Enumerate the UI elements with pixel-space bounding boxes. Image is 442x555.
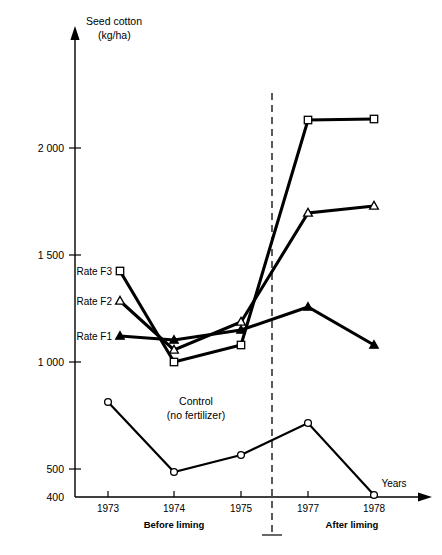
y-tick-label-1000: 1 000: [38, 356, 64, 368]
series-label-rate-f2: Rate F2: [76, 296, 112, 307]
marker-rate-f3-1973: [116, 267, 123, 274]
series-line-control: [108, 402, 374, 495]
seed-cotton-line-chart: Seed cotton (kg/ha) Years 2 000 1 500 1 …: [0, 0, 442, 555]
x-tick-label-1975: 1975: [230, 503, 253, 514]
x-tick-label-1977: 1977: [297, 503, 320, 514]
series-label-rate-f1: Rate F1: [76, 331, 112, 342]
marker-rate-f3-1975: [237, 341, 244, 348]
series-control: [105, 399, 378, 499]
liming-divider: [262, 93, 282, 535]
marker-control-1977: [305, 420, 312, 427]
x-tick-label-1973: 1973: [97, 503, 120, 514]
marker-control-1973: [105, 399, 112, 406]
x-axis-title: Years: [381, 478, 406, 489]
x-axis: [75, 492, 432, 501]
marker-rate-f3-1978: [370, 115, 377, 122]
y-axis-arrow-icon: [70, 26, 79, 40]
y-tick-label-400: 400: [46, 491, 64, 503]
period-label-after-liming: After liming: [326, 519, 379, 530]
x-tick-label-1974: 1974: [163, 503, 186, 514]
marker-rate-f1-1977: [304, 302, 313, 310]
series-rate-f1: Rate F1: [76, 302, 378, 348]
marker-control-1974: [171, 469, 178, 476]
x-axis-arrow-icon: [418, 492, 432, 501]
marker-control-1975: [238, 452, 245, 459]
marker-rate-f3-1977: [304, 116, 311, 123]
y-axis-title-line2: (kg/ha): [98, 29, 131, 41]
x-tick-label-1978: 1978: [363, 503, 386, 514]
y-tick-label-500: 500: [46, 463, 64, 475]
control-annotation-line1: Control: [179, 395, 213, 407]
marker-rate-f2-1973: [116, 296, 125, 304]
x-tick-group: 1973 1974 1975 1977 1978: [97, 491, 386, 514]
series-line-rate-f3: [120, 119, 374, 362]
period-label-before-liming: Before liming: [144, 519, 205, 530]
y-axis: [70, 26, 79, 497]
chart-container: Seed cotton (kg/ha) Years 2 000 1 500 1 …: [0, 0, 442, 555]
y-tick-label-2000: 2 000: [38, 142, 64, 154]
y-tick-label-1500: 1 500: [38, 249, 64, 261]
series-label-rate-f3: Rate F3: [76, 266, 112, 277]
marker-control-1978: [371, 492, 378, 499]
series-rate-f2: Rate F2: [76, 201, 378, 353]
marker-rate-f3-1974: [170, 358, 177, 365]
y-axis-title-line1: Seed cotton: [86, 15, 142, 27]
control-annotation-line2: (no fertilizer): [167, 409, 225, 421]
